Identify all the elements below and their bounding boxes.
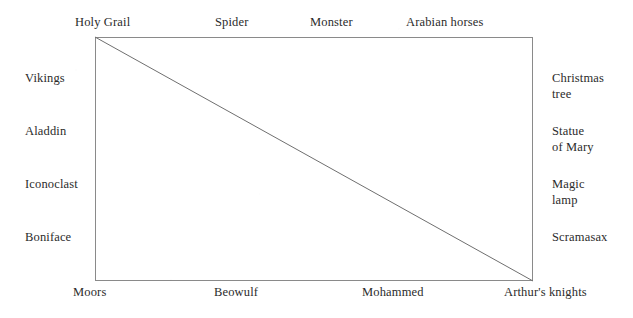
trend-line-svg <box>95 37 533 281</box>
right-axis-label-1: Christmas tree <box>552 71 604 102</box>
top-axis-label-2: Spider <box>215 15 249 31</box>
left-axis-label-1: Vikings <box>25 71 65 87</box>
top-axis-label-3: Monster <box>310 15 353 31</box>
top-axis-label-1: Holy Grail <box>75 15 130 31</box>
left-axis-label-2: Aladdin <box>25 124 66 140</box>
right-axis-label-4: Scramasax <box>552 230 608 246</box>
top-axis-label-4: Arabian horses <box>406 15 483 31</box>
right-axis-label-2: Statue of Mary <box>552 124 594 155</box>
right-axis-label-3: Magic lamp <box>552 177 585 208</box>
bottom-axis-label-1: Moors <box>73 285 106 301</box>
descending-diagonal-line <box>95 37 533 281</box>
left-axis-label-4: Boniface <box>25 230 71 246</box>
bottom-axis-label-3: Mohammed <box>362 285 424 301</box>
left-axis-label-3: Iconoclast <box>25 177 78 193</box>
bottom-axis-label-2: Beowulf <box>214 285 258 301</box>
bottom-axis-label-4: Arthur's knights <box>504 285 587 301</box>
diagram-figure: Holy Grail Spider Monster Arabian horses… <box>0 0 633 318</box>
